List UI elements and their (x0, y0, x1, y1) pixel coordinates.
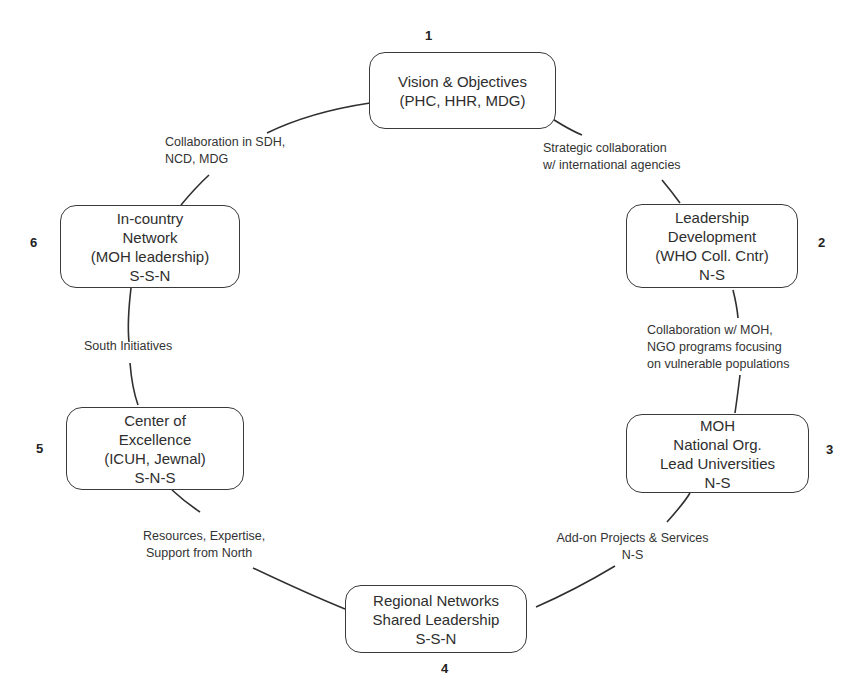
edge-2-3-line-3: on vulnerable populations (647, 356, 789, 373)
node-moh-national-org: MOH National Org. Lead Universities N-S (626, 414, 809, 493)
node-2-line-2: Development (668, 227, 756, 246)
connector-4-5b (172, 490, 200, 512)
edge-3-4-line-1: Add-on Projects & Services (545, 530, 720, 547)
edge-label-6-1: Collaboration in SDH, NCD, MDG (165, 134, 285, 168)
node-3-line-2: National Org. (673, 435, 761, 454)
node-vision-objectives: Vision & Objectives (PHC, HHR, MDG) (369, 52, 556, 129)
edge-5-6-line-1: South Initiatives (84, 338, 172, 355)
edge-1-2-line-1: Strategic collaboration (543, 140, 681, 157)
node-in-country-network: In-country Network (MOH leadership) S-S-… (60, 205, 240, 288)
node-2-line-3: (WHO Coll. Cntr) (655, 246, 768, 265)
node-3-line-3: Lead Universities (660, 454, 775, 473)
connector-1-2b (662, 180, 680, 203)
node-5-line-4: S-N-S (135, 468, 176, 487)
node-3-line-1: MOH (700, 416, 735, 435)
connector-2-3b (735, 375, 740, 413)
edge-label-1-2: Strategic collaboration w/ international… (543, 140, 681, 174)
node-1-number: 1 (425, 28, 432, 43)
node-6-line-2: Network (122, 228, 177, 247)
node-5-line-3: (ICUH, Jewnal) (104, 449, 206, 468)
edge-2-3-line-1: Collaboration w/ MOH, (647, 322, 789, 339)
node-center-of-excellence: Center of Excellence (ICUH, Jewnal) S-N-… (66, 407, 244, 490)
connector-6-1b (267, 103, 370, 133)
edge-4-5-line-1: Resources, Expertise, (143, 528, 265, 545)
node-1-line-2: (PHC, HHR, MDG) (400, 91, 526, 110)
node-4-line-2: Shared Leadership (373, 610, 500, 629)
node-6-line-4: S-S-N (130, 266, 171, 285)
connector-5-6 (130, 363, 138, 405)
node-4-line-1: Regional Networks (373, 591, 499, 610)
node-leadership-development: Leadership Development (WHO Coll. Cntr) … (626, 204, 798, 288)
edge-6-1-line-1: Collaboration in SDH, (165, 134, 285, 151)
node-1-line-1: Vision & Objectives (398, 72, 527, 91)
connector-4-5 (253, 568, 345, 609)
edge-2-3-line-2: NGO programs focusing (647, 339, 789, 356)
node-5-line-1: Center of (124, 411, 186, 430)
connector-6-1 (181, 175, 209, 205)
node-5-line-2: Excellence (119, 430, 192, 449)
edge-1-2-line-2: w/ international agencies (543, 157, 681, 174)
node-regional-networks: Regional Networks Shared Leadership S-S-… (345, 585, 527, 653)
edge-label-2-3: Collaboration w/ MOH, NGO programs focus… (647, 322, 789, 373)
node-2-line-1: Leadership (675, 208, 749, 227)
node-3-number: 3 (826, 442, 833, 457)
node-2-number: 2 (818, 235, 825, 250)
edge-4-5-line-2: Support from North (143, 545, 265, 562)
node-6-line-1: In-country (117, 209, 184, 228)
connector-3-4b (536, 566, 615, 607)
node-2-line-4: N-S (699, 265, 725, 284)
node-4-number: 4 (441, 661, 448, 676)
connector-2-3 (733, 290, 738, 318)
edge-label-4-5: Resources, Expertise, Support from North (143, 528, 265, 562)
connector-5-6b (128, 288, 131, 342)
node-3-line-4: N-S (705, 473, 731, 492)
node-4-line-3: S-S-N (416, 629, 457, 648)
edge-6-1-line-2: NCD, MDG (165, 151, 285, 168)
node-5-number: 5 (36, 441, 43, 456)
edge-3-4-line-2: N-S (545, 547, 720, 564)
edge-label-3-4: Add-on Projects & Services N-S (545, 530, 720, 564)
connector-3-4 (667, 493, 690, 522)
node-6-number: 6 (30, 235, 37, 250)
node-6-line-3: (MOH leadership) (91, 247, 209, 266)
edge-label-5-6: South Initiatives (84, 338, 172, 355)
